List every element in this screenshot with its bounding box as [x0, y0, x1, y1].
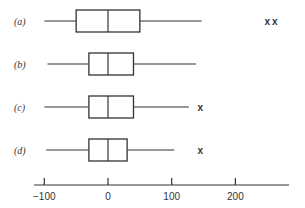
series-label: (c) — [14, 102, 26, 114]
boxplot-chart: (a)xx(b)(c)x(d)x−1000100200 — [0, 0, 305, 208]
outlier-marker: x — [198, 145, 204, 156]
outlier-marker: x — [272, 16, 278, 27]
x-tick-label: −100 — [33, 191, 56, 202]
outlier-marker: x — [198, 102, 204, 113]
series-label: (b) — [14, 59, 26, 71]
series-label: (a) — [14, 16, 26, 28]
box — [89, 53, 134, 75]
x-tick-label: 100 — [163, 191, 180, 202]
x-tick-label: 200 — [227, 191, 244, 202]
box — [89, 96, 134, 118]
x-tick-label: 0 — [105, 191, 111, 202]
outlier-marker: x — [264, 16, 270, 27]
series-label: (d) — [14, 145, 26, 157]
